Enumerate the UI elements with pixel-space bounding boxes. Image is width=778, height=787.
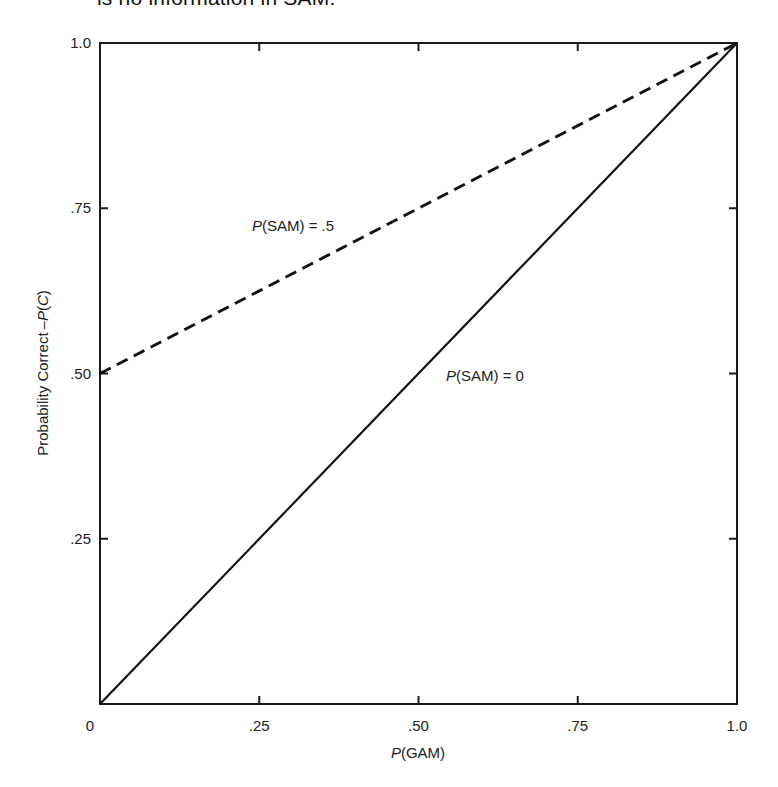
y-tick-label: 1.0 xyxy=(70,34,91,51)
y-tick-label: .25 xyxy=(70,530,91,547)
annotation-psam-0: P(SAM) = 0 xyxy=(446,367,524,384)
chart: 0.25.50.751.0.25.50.751.0 P(SAM) = .5 P(… xyxy=(0,0,778,787)
x-tick-label: 0 xyxy=(86,717,94,734)
y-tick-label: .50 xyxy=(70,365,91,382)
x-tick-label: .75 xyxy=(567,717,588,734)
annotation-psam-05: P(SAM) = .5 xyxy=(252,217,334,234)
series-psam-0-line xyxy=(100,43,737,704)
x-tick-label: 1.0 xyxy=(727,717,748,734)
x-axis-title: P(GAM) xyxy=(391,744,445,761)
x-tick-label: .50 xyxy=(408,717,429,734)
x-tick-label: .25 xyxy=(249,717,270,734)
series-lines xyxy=(100,43,737,704)
y-tick-label: .75 xyxy=(70,199,91,216)
y-axis-title: Probability Correct –P(C) xyxy=(34,290,51,456)
series-psam-05-line xyxy=(100,43,737,374)
